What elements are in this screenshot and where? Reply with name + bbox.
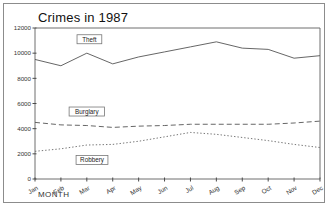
line-chart-svg: 020004000600080001000012000 JanFebMarApr… <box>4 4 326 204</box>
data-series-group <box>35 42 320 151</box>
x-tick-label: May <box>129 183 144 197</box>
x-tick-label: Jun <box>156 184 169 196</box>
y-tick-label: 12000 <box>14 24 32 31</box>
series-label-robbery: Robbery <box>76 155 108 164</box>
x-tick-label: Oct <box>260 184 272 195</box>
series-line-robbery <box>35 132 320 151</box>
series-label-burglary: Burglary <box>69 107 104 116</box>
series-label-theft: Theft <box>77 35 102 44</box>
svg-text:Robbery: Robbery <box>80 156 105 164</box>
y-axis: 020004000600080001000012000 <box>14 24 37 182</box>
chart-plot-area: 020004000600080001000012000 JanFebMarApr… <box>4 4 326 204</box>
x-axis: JanFebMarAprMayJunJulAugSepOctNovDec <box>27 178 325 198</box>
x-tick-label: Dec <box>311 183 325 195</box>
x-tick-label: Nov <box>285 183 299 195</box>
svg-text:Burglary: Burglary <box>75 108 99 116</box>
x-tick-label: Mar <box>78 183 92 195</box>
x-tick-label: Aug <box>207 184 221 197</box>
y-tick-label: 8000 <box>17 75 31 82</box>
y-tick-label: 4000 <box>17 125 31 132</box>
x-tick-label: Sep <box>233 184 247 197</box>
series-line-burglary <box>35 121 320 127</box>
series-line-theft <box>35 42 320 66</box>
y-tick-label: 0 <box>28 175 32 182</box>
chart-window-frame: Crimes in 1987 0200040006000800010000120… <box>3 3 325 203</box>
svg-text:Theft: Theft <box>82 36 97 43</box>
x-tick-label: Apr <box>105 183 118 196</box>
y-tick-label: 2000 <box>17 150 31 157</box>
y-tick-label: 6000 <box>17 100 31 107</box>
x-axis-title: MONTH <box>38 190 69 199</box>
y-tick-label: 10000 <box>14 49 32 56</box>
x-tick-label: Jul <box>184 184 195 194</box>
